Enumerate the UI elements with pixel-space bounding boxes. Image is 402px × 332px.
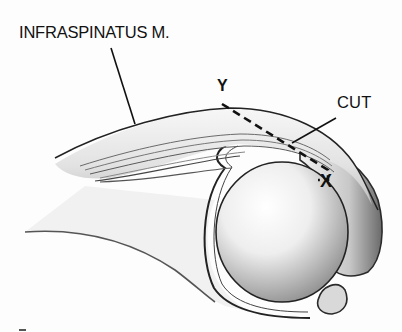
cut-label: CUT (337, 94, 372, 111)
muscle-leader-line (111, 48, 135, 124)
point-y-label: Y (217, 78, 228, 94)
anatomy-illustration: INFRASPINATUS M. CUT Y X (0, 0, 402, 332)
point-x-label: X (320, 172, 332, 190)
corner-mark (19, 329, 26, 331)
muscle-label: INFRASPINATUS M. (19, 24, 170, 41)
illustration-drawing (0, 0, 402, 332)
humerus-shaft (25, 186, 250, 312)
